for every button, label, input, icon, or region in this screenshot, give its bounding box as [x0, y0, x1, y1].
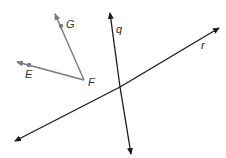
label-e: E: [25, 68, 33, 80]
line-r: [15, 28, 219, 141]
geometry-diagram: G E F q r: [0, 0, 226, 158]
label-q: q: [116, 23, 123, 35]
label-f: F: [88, 76, 96, 88]
label-g: G: [66, 18, 75, 30]
point-g-dot: [59, 24, 63, 28]
label-r: r: [201, 39, 206, 51]
point-e-dot: [27, 63, 31, 67]
